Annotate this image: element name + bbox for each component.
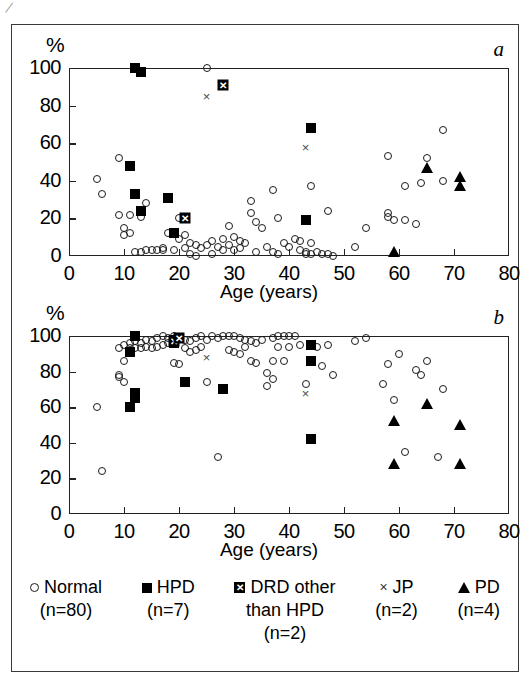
legend-sample-size: (n=2) [234, 622, 335, 645]
panel-b-y-tick-label: 60 [15, 395, 61, 418]
panel-a-x-tick-label: 20 [159, 262, 199, 285]
open-circle-marker [291, 332, 299, 340]
open-circle-marker [115, 154, 123, 162]
open-circle-marker [285, 343, 293, 351]
panel-b-x-tick [399, 507, 400, 514]
legend-item-pd: PD(n=4) [457, 576, 500, 645]
panel-a-x-tick-label: 50 [324, 262, 364, 285]
crossed-square-icon: ✕ [234, 582, 245, 593]
open-circle-marker [236, 350, 244, 358]
open-circle-marker [351, 337, 359, 345]
open-circle-marker [247, 209, 255, 217]
open-circle-marker [307, 182, 315, 190]
open-circle-marker [434, 453, 442, 461]
open-circle-marker [159, 244, 167, 252]
legend-item-jp: ×JP(n=2) [375, 576, 418, 645]
open-circle-marker [439, 126, 447, 134]
panel-a-plot-area [69, 68, 509, 256]
panel-a-letter: a [494, 37, 505, 62]
filled-triangle-marker [421, 162, 433, 173]
open-circle-marker [274, 250, 282, 258]
filled-square-marker [169, 228, 179, 238]
panel-b-x-tick [234, 507, 235, 514]
filled-triangle-icon [458, 582, 470, 593]
panel-a-x-tick [344, 249, 345, 256]
open-circle-marker [324, 207, 332, 215]
filled-square-marker [136, 206, 146, 216]
panel-b-x-tick-label: 30 [214, 520, 254, 543]
panel-b-y-tick-label: 40 [15, 431, 61, 454]
panel-a-x-tick-label: 70 [434, 262, 474, 285]
open-circle-marker [384, 360, 392, 368]
legend-label: Normal [44, 576, 102, 599]
panel-a-x-tick-label: 10 [104, 262, 144, 285]
filled-square-marker [306, 123, 316, 133]
open-circle-marker [423, 357, 431, 365]
filled-square-marker [301, 215, 311, 225]
filled-square-marker [130, 331, 140, 341]
panel-b-x-tick [344, 507, 345, 514]
open-circle-marker [269, 357, 277, 365]
open-circle-marker [401, 182, 409, 190]
legend-sample-size: (n=4) [457, 599, 500, 622]
panel-a-y-axis-unit: % [46, 33, 64, 57]
open-circle-marker [296, 341, 304, 349]
filled-square-marker [130, 189, 140, 199]
legend-item-hpd: HPD(n=7) [142, 576, 195, 645]
filled-square-marker [306, 356, 316, 366]
open-circle-marker [324, 341, 332, 349]
panel-b-x-tick-label: 0 [49, 520, 89, 543]
panel-b-y-tick-label: 80 [15, 360, 61, 383]
open-circle-marker [439, 177, 447, 185]
open-circle-marker [225, 222, 233, 230]
panel-a-y-tick-label: 60 [15, 131, 61, 154]
open-circle-marker [269, 375, 277, 383]
panel-b-y-tick [69, 407, 76, 408]
open-circle-marker [412, 220, 420, 228]
filled-triangle-marker [454, 419, 466, 430]
open-circle-marker [318, 362, 326, 370]
open-circle-marker [252, 359, 260, 367]
legend-sample-size: (n=80) [30, 599, 102, 622]
x-cross-marker: × [300, 387, 311, 398]
open-circle-marker [93, 403, 101, 411]
open-circle-marker [395, 350, 403, 358]
open-circle-marker [384, 209, 392, 217]
open-circle-marker [258, 336, 266, 344]
open-circle-marker [296, 237, 304, 245]
open-circle-marker [329, 371, 337, 379]
open-circle-marker [247, 197, 255, 205]
panel-a-x-tick-label: 40 [269, 262, 309, 285]
panel-a-y-tick-label: 40 [15, 169, 61, 192]
open-circle-marker [379, 380, 387, 388]
legend-label: DRD other [250, 576, 335, 599]
crossed-square-marker: ✕ [218, 79, 229, 90]
panel-b-x-tick [124, 507, 125, 514]
open-circle-marker [401, 448, 409, 456]
open-circle-marker [181, 231, 189, 239]
filled-triangle-marker [421, 398, 433, 409]
legend-item-drd-other: ✕DRD otherthan HPD(n=2) [234, 576, 335, 645]
panel-a-y-tick-label: 20 [15, 206, 61, 229]
panel-b-x-tick-label: 40 [269, 520, 309, 543]
panel-b-y-tick-label: 20 [15, 466, 61, 489]
legend-label-line2: than HPD [234, 599, 335, 622]
filled-square-marker [306, 340, 316, 350]
open-circle-marker [351, 243, 359, 251]
panel-b-plot-area [69, 336, 509, 514]
panel-a-y-tick-label: 100 [15, 56, 61, 79]
open-circle-icon [30, 583, 39, 592]
panel-a-x-tick-label: 60 [379, 262, 419, 285]
open-circle-marker [192, 252, 200, 260]
open-circle-marker [170, 246, 178, 254]
legend-label: PD [475, 576, 500, 599]
panel-b-x-tick [179, 507, 180, 514]
open-circle-marker [98, 467, 106, 475]
panel-b-letter: b [494, 305, 505, 330]
filled-square-marker [163, 193, 173, 203]
filled-square-marker [136, 67, 146, 77]
open-circle-marker [307, 239, 315, 247]
legend-label: HPD [157, 576, 195, 599]
open-circle-marker [98, 190, 106, 198]
panel-b-x-tick-label: 70 [434, 520, 474, 543]
